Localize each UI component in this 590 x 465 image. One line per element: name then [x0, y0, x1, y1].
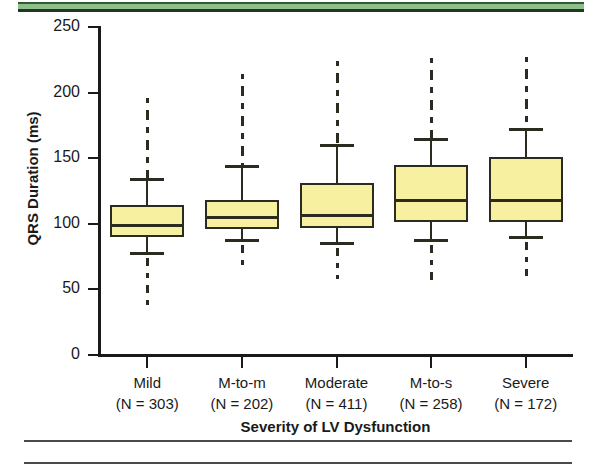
outlier-marks-upper [336, 103, 339, 113]
x-category-m-to-m: M-to-m(N = 202) [188, 372, 296, 414]
whisker-upper-line [336, 145, 338, 183]
outlier-marks-upper [336, 90, 339, 96]
outlier-marks-upper [241, 146, 244, 156]
boxplot-figure: QRS Duration (ms) 050100150200250 Mild(N… [0, 0, 590, 465]
y-tick-mark [88, 157, 99, 159]
x-category-severe: Severe(N = 172) [472, 372, 580, 414]
outlier-marks-lower [525, 257, 528, 262]
outlier-marks-lower [146, 258, 149, 266]
outlier-marks-upper [525, 99, 528, 109]
outlier-marks-upper [430, 117, 433, 123]
y-tick-mark [88, 354, 99, 356]
outlier-marks-upper [146, 157, 149, 163]
whisker-lower-cap [320, 242, 354, 245]
outlier-marks-lower [336, 248, 339, 256]
x-category-name: M-to-s [377, 372, 485, 393]
outlier-marks-upper [241, 103, 244, 109]
outlier-marks-upper [241, 133, 244, 139]
outlier-marks-lower [525, 269, 528, 276]
outlier-marks-upper [146, 140, 149, 150]
x-tick-mark [525, 357, 527, 368]
outlier-marks-upper [430, 100, 433, 110]
y-tick-mark [88, 288, 99, 290]
median-line [300, 214, 374, 217]
outlier-marks-lower [430, 245, 433, 253]
outlier-marks-lower [336, 275, 339, 278]
whisker-upper-line [146, 179, 148, 205]
box-iqr [205, 200, 279, 229]
outlier-marks-lower [241, 260, 244, 265]
outlier-marks-upper [146, 98, 149, 103]
whisker-lower-line [146, 237, 148, 253]
outlier-marks-upper [336, 120, 339, 126]
x-category-count: (N = 202) [188, 393, 296, 414]
box-iqr [489, 157, 563, 223]
outlier-marks-upper [241, 116, 244, 126]
outlier-marks-upper [430, 58, 433, 63]
y-tick-mark [88, 92, 99, 94]
whisker-upper-cap [509, 128, 543, 131]
median-line [205, 216, 279, 219]
x-category-name: Severe [472, 372, 580, 393]
outlier-marks-lower [146, 273, 149, 278]
x-axis-title: Severity of LV Dysfunction [98, 418, 573, 435]
x-tick-mark [146, 357, 148, 368]
outlier-marks-upper [430, 70, 433, 80]
outlier-marks-upper [241, 86, 244, 96]
y-tick-label: 200 [24, 83, 80, 101]
x-category-moderate: Moderate(N = 411) [283, 372, 391, 414]
outlier-marks-lower [336, 263, 339, 268]
outlier-marks-upper [525, 116, 528, 122]
divider-rule-upper [24, 440, 572, 442]
x-category-name: M-to-m [188, 372, 296, 393]
y-tick-mark [88, 223, 99, 225]
whisker-upper-line [241, 166, 243, 200]
outlier-marks-upper [525, 86, 528, 92]
divider-rule-lower [24, 462, 572, 464]
whisker-upper-cap [320, 144, 354, 147]
median-line [394, 199, 468, 202]
x-category-name: Moderate [283, 372, 391, 393]
y-axis-line [98, 26, 101, 357]
whisker-lower-cap [130, 252, 164, 255]
outlier-marks-upper [241, 163, 244, 166]
whisker-lower-cap [414, 239, 448, 242]
outlier-marks-upper [525, 57, 528, 62]
whisker-upper-line [525, 129, 527, 157]
outlier-marks-lower [241, 245, 244, 253]
x-category-count: (N = 258) [377, 393, 485, 414]
whisker-lower-line [336, 228, 338, 244]
x-category-m-to-s: M-to-s(N = 258) [377, 372, 485, 414]
x-category-name: Mild [93, 372, 201, 393]
outlier-marks-upper [146, 110, 149, 120]
outlier-marks-lower [146, 285, 149, 293]
whisker-lower-line [525, 222, 527, 236]
outlier-marks-upper [241, 74, 244, 79]
box-iqr [300, 183, 374, 228]
x-category-count: (N = 172) [472, 393, 580, 414]
outlier-marks-upper [430, 87, 433, 93]
outlier-marks-lower [430, 260, 433, 265]
y-tick-mark [88, 26, 99, 28]
outlier-marks-upper [525, 69, 528, 79]
outlier-marks-upper [430, 130, 433, 138]
x-category-mild: Mild(N = 303) [93, 372, 201, 414]
outlier-marks-lower [146, 300, 149, 305]
x-category-count: (N = 303) [93, 393, 201, 414]
whisker-lower-cap [225, 239, 259, 242]
outlier-marks-lower [525, 242, 528, 250]
x-tick-mark [430, 357, 432, 368]
whisker-lower-cap [509, 236, 543, 239]
box-iqr [110, 205, 184, 236]
y-tick-label: 250 [24, 17, 80, 35]
outlier-marks-upper [146, 170, 149, 179]
outlier-marks-upper [336, 73, 339, 83]
median-line [110, 224, 184, 227]
y-tick-label: 50 [24, 279, 80, 297]
y-tick-label: 150 [24, 148, 80, 166]
outlier-marks-upper [336, 133, 339, 143]
outlier-marks-upper [146, 127, 149, 133]
whisker-upper-line [430, 139, 432, 165]
x-category-count: (N = 411) [283, 393, 391, 414]
box-iqr [394, 165, 468, 223]
